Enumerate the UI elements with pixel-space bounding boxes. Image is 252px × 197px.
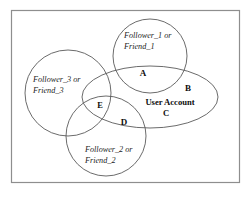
label-follower-3-line-2: Friend_3 [32,86,63,95]
label-follower-1-line-1: Follower_1 or [123,31,172,40]
region-label-a: A [140,68,147,78]
region-label-b: B [185,83,191,93]
label-follower-2-line-1: Follower_2 or [84,145,133,154]
label-follower-3-line-1: Follower_3 or [32,75,81,84]
label-user-account: User Account [145,97,194,107]
region-label-e: E [97,101,103,110]
label-follower-1-line-2: Friend_1 [123,42,154,51]
region-label-d: D [121,117,128,127]
venn-diagram-figure: Follower_1 or Friend_1 Follower_3 or Fri… [0,0,252,197]
diagram-canvas: Follower_1 or Friend_1 Follower_3 or Fri… [0,0,252,197]
region-label-c: C [163,108,169,118]
label-follower-2-line-2: Friend_2 [84,156,115,165]
